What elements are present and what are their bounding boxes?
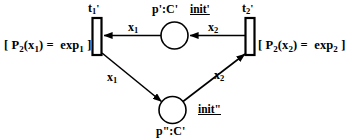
arc-bottom-left-label: x1 [107, 70, 117, 85]
petri-net-diagram: t1' t2' p':C' init' p":C' init" [ P2(x1)… [0, 0, 350, 139]
arc-top-right-label: x2 [208, 20, 218, 35]
transition-t2-label: t2' [242, 1, 253, 16]
transition-t2[interactable] [246, 18, 255, 55]
transition-t2-guard: [ P2(x2) = exp2 ] [258, 38, 345, 53]
petri-net-canvas [0, 0, 350, 139]
place-p-top[interactable] [161, 22, 188, 49]
place-p-bottom[interactable] [159, 97, 186, 124]
place-p-top-label: p':C' [152, 2, 178, 17]
place-p-top-init: init' [190, 3, 210, 15]
place-p-bottom-init: init" [198, 103, 221, 115]
arc-bottom-right-label: x2 [214, 68, 224, 83]
transition-t1-guard: [ P2(x1) = exp1 ] [4, 38, 91, 53]
transition-t1[interactable] [93, 18, 102, 55]
place-p-bottom-label: p":C' [156, 124, 185, 139]
arc-top-left-label: x1 [128, 20, 138, 35]
transition-t1-label: t1' [88, 1, 99, 16]
